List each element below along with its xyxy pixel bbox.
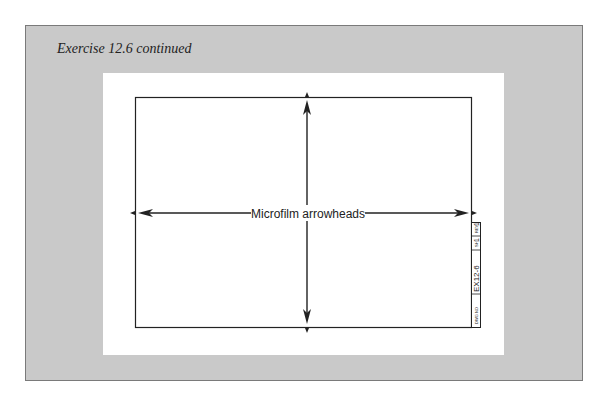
microfilm-mark-left-icon [130, 211, 135, 215]
title-block: DWG NO EX12-6 SH 1 REV 1 [472, 222, 482, 328]
microfilm-mark-right-icon [472, 211, 477, 215]
microfilm-mark-top-icon [305, 92, 309, 97]
center-label: Microfilm arrowheads [251, 207, 365, 221]
drawing-canvas: Microfilm arrowheads DWG NO EX12-6 SH 1 … [0, 0, 606, 400]
sheet-value: 1 [473, 238, 480, 242]
microfilm-mark-bottom-icon [305, 328, 309, 333]
dwg-no-value: EX12-6 [472, 265, 481, 292]
rev-value: 1 [473, 222, 480, 226]
dwg-no-label: DWG NO [474, 307, 479, 324]
